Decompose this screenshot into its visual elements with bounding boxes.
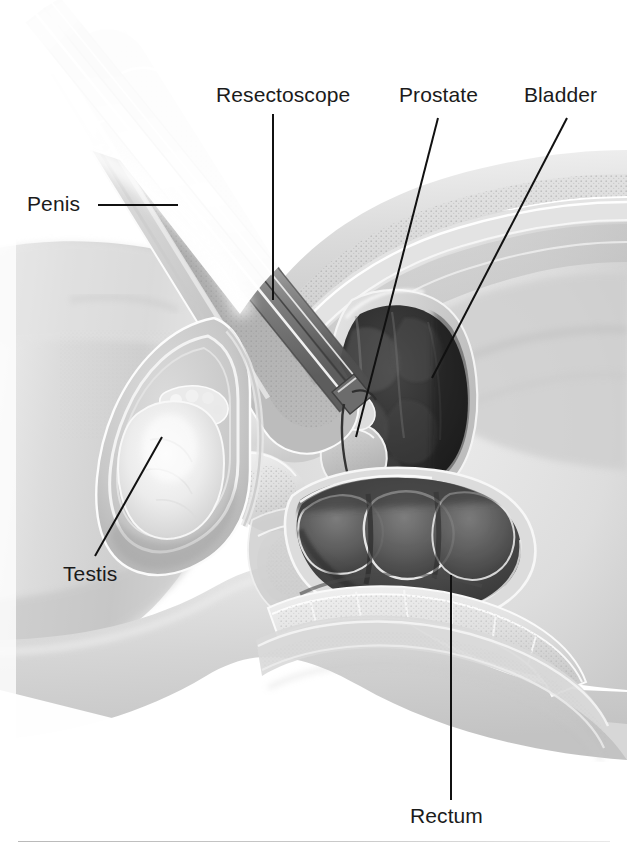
anatomy-illustration [0, 0, 627, 852]
label-resectoscope: Resectoscope [216, 84, 350, 105]
label-rectum: Rectum [410, 805, 483, 826]
label-testis: Testis [63, 563, 117, 584]
label-prostate: Prostate [399, 84, 478, 105]
illustration-canvas [0, 0, 627, 852]
label-bladder: Bladder [524, 84, 597, 105]
label-penis: Penis [27, 193, 80, 214]
footer-divider [18, 841, 610, 842]
anatomical-figure: Penis Resectoscope Prostate Bladder Test… [0, 0, 627, 852]
